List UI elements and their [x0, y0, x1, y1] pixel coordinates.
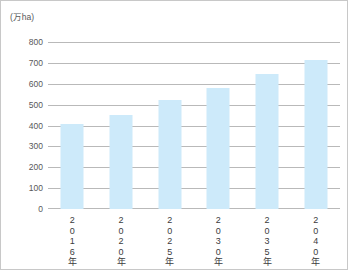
- x-axis-tick-label-char: 0: [214, 226, 223, 237]
- x-axis-tick-label-char: 5: [165, 247, 174, 258]
- bar-slot: [243, 42, 292, 209]
- x-axis-tick-label-char: 2: [311, 215, 320, 226]
- x-axis-tick-label-char: 6: [68, 247, 77, 258]
- x-axis-tick-label-char: 3: [214, 236, 223, 247]
- x-axis-tick-label-char: 3: [263, 236, 272, 247]
- x-axis-tick-label-char: 0: [68, 226, 77, 237]
- x-axis-tick-label-char: 2: [165, 215, 174, 226]
- y-axis-unit-label: (万ha): [10, 10, 34, 22]
- y-axis-tick-label: 800: [29, 38, 43, 47]
- x-axis-tick-label: 2020年: [117, 215, 126, 268]
- plot-area: 8007006005004003002001000 2016年2020年2025…: [48, 42, 340, 209]
- bar[interactable]: [255, 74, 278, 209]
- x-axis-tick-label-char: 2: [214, 215, 223, 226]
- y-axis-tick-label: 200: [29, 163, 43, 172]
- bars-group: [48, 42, 340, 209]
- x-axis-tick-label-char: 2: [165, 236, 174, 247]
- bar[interactable]: [61, 124, 84, 209]
- x-axis-tick-label: 2040年: [311, 215, 320, 268]
- x-axis-tick-label-char: 年: [68, 257, 77, 268]
- y-axis-tick-label: 300: [29, 142, 43, 151]
- bar[interactable]: [304, 60, 327, 209]
- x-axis-tick-label-char: 0: [165, 226, 174, 237]
- x-axis-tick-label-char: 年: [117, 257, 126, 268]
- x-axis-tick-label-char: 4: [311, 236, 320, 247]
- bar[interactable]: [109, 115, 132, 209]
- x-axis-tick-label-char: 年: [311, 257, 320, 268]
- bar[interactable]: [158, 100, 181, 209]
- x-axis-tick-label: 2030年: [214, 215, 223, 268]
- x-axis-tick-label-char: 0: [117, 247, 126, 258]
- x-axis-tick-label-char: 2: [68, 215, 77, 226]
- x-axis-tick-label-char: 0: [117, 226, 126, 237]
- x-axis-tick-label-char: 1: [68, 236, 77, 247]
- x-axis-tick-label-char: 2: [117, 236, 126, 247]
- x-axis-tick-label: 2035年: [263, 215, 272, 268]
- bar-slot: [145, 42, 194, 209]
- x-axis-tick-label-char: 年: [165, 257, 174, 268]
- bar-slot: [291, 42, 340, 209]
- x-axis-tick-label-char: 2: [263, 215, 272, 226]
- bar-chart-figure: (万ha) 8007006005004003002001000 2016年202…: [0, 0, 348, 270]
- x-axis-tick-label-char: 年: [263, 257, 272, 268]
- y-axis-tick-label: 0: [38, 205, 43, 214]
- x-axis-tick-label: 2025年: [165, 215, 174, 268]
- x-axis-tick-label-char: 年: [214, 257, 223, 268]
- x-axis-tick-label: 2016年: [68, 215, 77, 268]
- x-axis-tick-label-char: 0: [311, 226, 320, 237]
- bar-slot: [194, 42, 243, 209]
- bar-slot: [48, 42, 97, 209]
- bar-slot: [97, 42, 146, 209]
- y-axis-tick-label: 700: [29, 59, 43, 68]
- y-axis-tick-label: 400: [29, 121, 43, 130]
- x-axis-tick-label-char: 5: [263, 247, 272, 258]
- y-axis-tick-label: 600: [29, 80, 43, 89]
- x-axis-tick-label-char: 0: [214, 247, 223, 258]
- x-axis-tick-label-char: 0: [311, 247, 320, 258]
- x-axis-tick-label-char: 2: [117, 215, 126, 226]
- bar[interactable]: [207, 88, 230, 209]
- y-axis-tick-label: 100: [29, 184, 43, 193]
- x-axis-tick-label-char: 0: [263, 226, 272, 237]
- y-axis-tick-label: 500: [29, 100, 43, 109]
